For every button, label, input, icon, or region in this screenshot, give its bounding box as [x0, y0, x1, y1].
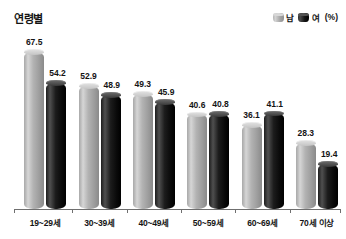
axis-tick	[181, 209, 182, 213]
bar-value-label: 28.3	[298, 129, 315, 138]
bar-value-label: 36.1	[243, 111, 260, 120]
bar-value-label: 40.8	[212, 100, 229, 109]
bar-value-label: 19.4	[321, 150, 338, 159]
category-label: 30~39세	[84, 216, 115, 228]
bar-cylinder: 40.6	[187, 114, 207, 209]
bar-cylinder: 41.1	[264, 113, 284, 209]
legend-label-female: 여	[312, 11, 320, 23]
axis-tick	[235, 209, 236, 213]
bar-value-label: 48.9	[104, 81, 121, 90]
bar-female[interactable]: 19.4	[318, 164, 338, 209]
bar-cylinder: 52.9	[79, 86, 99, 209]
bar-value-label: 49.3	[135, 80, 152, 89]
bar-value-label: 41.1	[267, 100, 284, 109]
male-cylinder-icon	[273, 13, 284, 22]
bar-female[interactable]: 40.8	[209, 114, 229, 209]
bar-cylinder: 19.4	[318, 164, 338, 209]
legend-label-male: 남	[286, 11, 294, 23]
bar-male[interactable]: 52.9	[79, 86, 99, 209]
bar-male[interactable]: 40.6	[187, 114, 207, 209]
female-cylinder-icon	[298, 13, 309, 22]
bar-group: 36.141.1	[241, 34, 285, 209]
legend-unit: (%)	[325, 12, 338, 22]
legend-item-female: 여	[298, 11, 320, 23]
bar-male[interactable]: 28.3	[296, 143, 316, 209]
axis-tick	[72, 209, 73, 213]
bar-group: 40.640.8	[186, 34, 230, 209]
chart-container: 연령별 남 여 (%) 67.554.252.948.949.345.940.6…	[0, 0, 346, 239]
axis-tick	[14, 209, 15, 213]
bar-value-label: 45.9	[158, 88, 175, 97]
bar-female[interactable]: 48.9	[101, 95, 121, 209]
bar-group: 67.554.2	[23, 34, 67, 209]
bar-value-label: 54.2	[49, 69, 66, 78]
bar-cylinder: 36.1	[242, 125, 262, 209]
x-axis-line	[14, 209, 340, 210]
plot-area: 67.554.252.948.949.345.940.640.836.141.1…	[14, 34, 340, 210]
legend-item-male: 남	[273, 11, 295, 23]
bar-male[interactable]: 36.1	[242, 125, 262, 209]
axis-tick	[340, 209, 341, 213]
bar-group: 28.319.4	[295, 34, 339, 209]
axis-tick	[290, 209, 291, 213]
bar-male[interactable]: 67.5	[24, 52, 44, 210]
category-label: 60~69세	[247, 216, 278, 228]
bar-group: 52.948.9	[78, 34, 122, 209]
bar-cylinder: 28.3	[296, 143, 316, 209]
category-label: 19~29세	[30, 216, 61, 228]
bar-female[interactable]: 45.9	[155, 102, 175, 209]
chart-legend: 남 여 (%)	[273, 11, 338, 23]
category-label: 40~49세	[138, 216, 169, 228]
category-labels: 19~29세30~39세40~49세50~59세60~69세70세 이상	[14, 216, 340, 232]
bar-cylinder: 67.5	[24, 52, 44, 210]
bar-cylinder: 40.8	[209, 114, 229, 209]
bar-male[interactable]: 49.3	[133, 94, 153, 209]
bar-value-label: 40.6	[189, 101, 206, 110]
bar-cylinder: 54.2	[46, 83, 66, 209]
category-label: 70세 이상	[300, 216, 335, 228]
bar-cylinder: 49.3	[133, 94, 153, 209]
bar-value-label: 52.9	[80, 72, 97, 81]
category-label: 50~59세	[193, 216, 224, 228]
bar-female[interactable]: 41.1	[264, 113, 284, 209]
bar-cylinder: 48.9	[101, 95, 121, 209]
bar-cylinder: 45.9	[155, 102, 175, 209]
bar-value-label: 67.5	[26, 38, 43, 47]
bar-female[interactable]: 54.2	[46, 83, 66, 209]
bar-group: 49.345.9	[132, 34, 176, 209]
axis-tick	[127, 209, 128, 213]
chart-title: 연령별	[14, 10, 43, 26]
